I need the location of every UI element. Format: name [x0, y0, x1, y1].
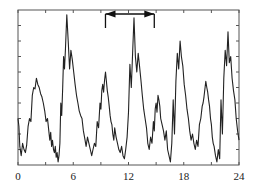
line-chart: 06121824 [0, 0, 260, 188]
x-tick-labels: 06121824 [15, 170, 245, 182]
arrowhead-left-icon [105, 11, 115, 18]
annotations [105, 11, 154, 29]
x-tick-label: 6 [71, 170, 77, 182]
x-tick-label: 18 [178, 170, 190, 182]
x-tick-label: 12 [123, 170, 134, 182]
y-ticks [18, 26, 239, 150]
series-group [18, 15, 239, 162]
x-tick-label: 0 [15, 170, 21, 182]
series-line-signal [18, 15, 239, 162]
arrowhead-right-icon [144, 11, 154, 18]
x-tick-label: 24 [234, 170, 246, 182]
